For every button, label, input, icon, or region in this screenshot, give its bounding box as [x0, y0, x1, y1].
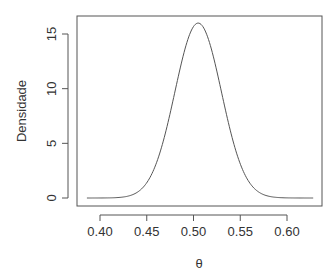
- y-tick-label: 5: [44, 140, 59, 147]
- y-axis: 051015: [44, 27, 68, 202]
- chart-svg: 051015 0.400.450.500.550.60 θ Densidade: [0, 0, 333, 278]
- x-tick-label: 0.55: [228, 224, 253, 239]
- x-tick-label: 0.60: [274, 224, 299, 239]
- density-curve: [87, 23, 313, 198]
- y-axis-label: Densidade: [14, 80, 29, 142]
- x-tick-label: 0.40: [87, 224, 112, 239]
- x-axis-label: θ: [195, 256, 202, 271]
- density-chart: 051015 0.400.450.500.550.60 θ Densidade: [0, 0, 333, 278]
- plot-box: [77, 16, 322, 206]
- y-tick-label: 0: [44, 194, 59, 201]
- x-axis: 0.400.450.500.550.60: [87, 215, 299, 239]
- x-tick-label: 0.45: [134, 224, 159, 239]
- y-tick-label: 10: [44, 81, 59, 95]
- y-tick-label: 15: [44, 27, 59, 41]
- x-tick-label: 0.50: [181, 224, 206, 239]
